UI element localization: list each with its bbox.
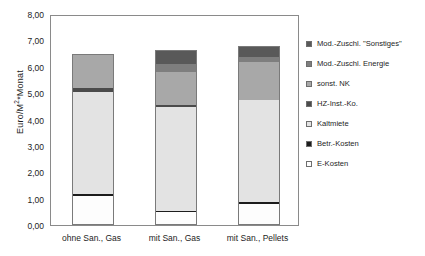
stacked-bar-chart: Euro/M2*Monat 0,001,002,003,004,005,006,… <box>0 0 425 256</box>
bar-segment[interactable] <box>72 54 114 88</box>
legend-swatch-icon <box>306 81 312 87</box>
legend-swatch-icon <box>306 121 312 127</box>
y-axis-tick-label: 1,00 <box>27 195 44 205</box>
legend-item[interactable]: sonst. NK <box>306 74 424 94</box>
legend-item[interactable]: Mod.-Zuschl. Energie <box>306 54 424 74</box>
y-axis-tick-label: 4,00 <box>27 116 44 126</box>
y-axis-tick-label: 0,00 <box>27 221 44 231</box>
bar-segment[interactable] <box>238 204 280 225</box>
bar-segment[interactable] <box>72 92 114 194</box>
legend-item[interactable]: Kaltmiete <box>306 114 424 134</box>
chart-legend: Mod.-Zuschl. "Sonstiges"Mod.-Zuschl. Ene… <box>306 34 424 174</box>
legend-swatch-icon <box>306 61 312 67</box>
x-axis-tick-label: ohne San., Gas <box>62 233 121 243</box>
legend-item[interactable]: HZ-Inst.-Ko. <box>306 94 424 114</box>
bar-segment[interactable] <box>155 50 197 64</box>
bar-segment[interactable] <box>238 100 280 202</box>
bar-segment[interactable] <box>155 107 197 210</box>
legend-swatch-icon <box>306 161 312 167</box>
legend-swatch-icon <box>306 41 312 47</box>
y-axis-tick-label: 3,00 <box>27 142 44 152</box>
legend-swatch-icon <box>306 101 312 107</box>
legend-swatch-icon <box>306 141 312 147</box>
bar-segment[interactable] <box>155 64 197 72</box>
legend-item-label: sonst. NK <box>317 80 350 88</box>
legend-item-label: E-Kosten <box>317 160 348 168</box>
y-axis-tick-label: 5,00 <box>27 89 44 99</box>
y-axis-tick-label: 7,00 <box>27 36 44 46</box>
legend-item-label: Kaltmiete <box>317 120 349 128</box>
bar-3[interactable] <box>238 46 280 225</box>
x-axis-tick-label: mit San., Pellets <box>227 233 288 243</box>
legend-item[interactable]: Betr.-Kosten <box>306 134 424 154</box>
x-axis-tick-label: mit San., Gas <box>149 233 201 243</box>
y-axis-tick-label: 6,00 <box>27 63 44 73</box>
legend-item-label: Mod.-Zuschl. "Sonstiges" <box>317 40 402 48</box>
bar-segment[interactable] <box>238 62 280 99</box>
bar-segment[interactable] <box>238 46 280 56</box>
bar-segment[interactable] <box>72 196 114 225</box>
legend-item-label: Betr.-Kosten <box>317 140 359 148</box>
plot-area <box>50 15 299 226</box>
bar-segment[interactable] <box>155 212 197 225</box>
legend-item[interactable]: Mod.-Zuschl. "Sonstiges" <box>306 34 424 54</box>
bar-1[interactable] <box>72 54 114 225</box>
y-axis-tick-label: 8,00 <box>27 10 44 20</box>
y-axis-tick-label: 2,00 <box>27 168 44 178</box>
bar-2[interactable] <box>155 50 197 225</box>
legend-item-label: Mod.-Zuschl. Energie <box>317 60 389 68</box>
plot-inner <box>51 16 298 225</box>
legend-item[interactable]: E-Kosten <box>306 154 424 174</box>
bar-segment[interactable] <box>155 72 197 105</box>
y-axis-tick-labels: 0,001,002,003,004,005,006,007,008,00 <box>0 0 48 256</box>
legend-item-label: HZ-Inst.-Ko. <box>317 100 358 108</box>
x-axis-tick-labels: ohne San., Gasmit San., Gasmit San., Pel… <box>50 233 299 253</box>
